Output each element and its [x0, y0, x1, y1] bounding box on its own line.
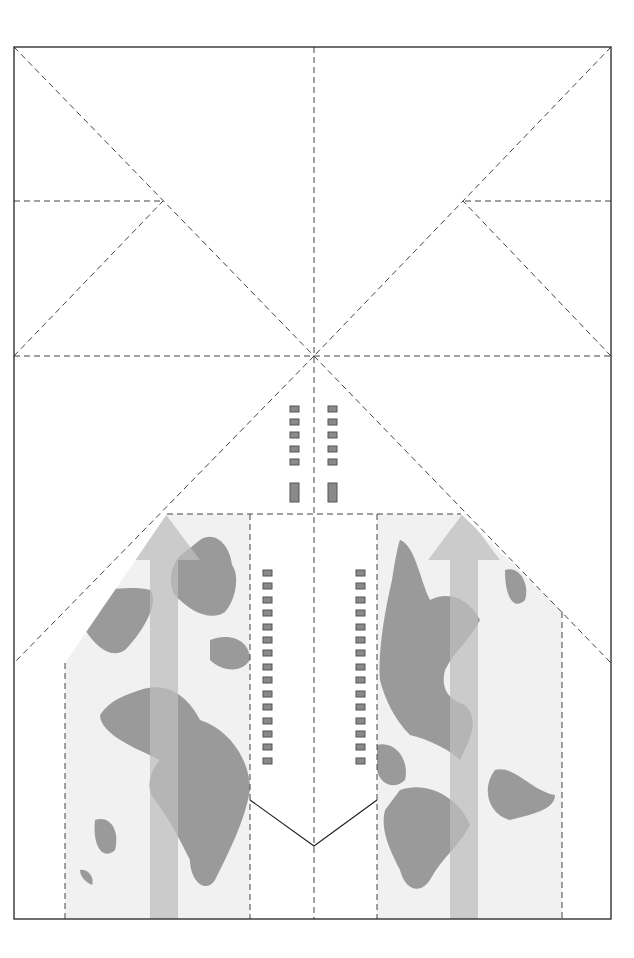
left-map-panel: [65, 512, 250, 930]
right-map-panel: [377, 512, 562, 930]
paper-airplane-template: [0, 0, 634, 958]
